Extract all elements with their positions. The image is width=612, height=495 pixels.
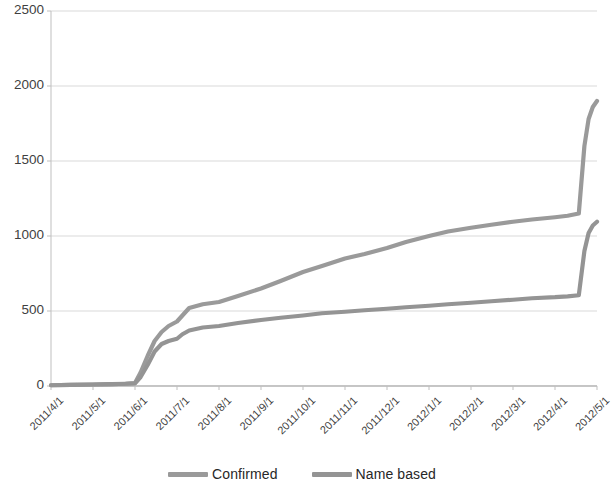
gridlines-group — [51, 11, 597, 386]
legend-swatch-icon — [168, 472, 208, 477]
axis-lines-group — [47, 11, 597, 386]
legend-item[interactable]: Name based — [312, 466, 436, 482]
x-tick-marks-group — [51, 386, 597, 390]
y-axis-label: 1000 — [0, 227, 44, 242]
y-axis-label: 500 — [0, 302, 44, 317]
chart-legend: ConfirmedName based — [0, 466, 604, 482]
legend-label: Name based — [356, 466, 436, 482]
series-line-confirmed — [51, 101, 597, 385]
legend-item[interactable]: Confirmed — [168, 466, 277, 482]
series-paths-group — [51, 101, 597, 385]
y-axis-label: 2000 — [0, 77, 44, 92]
y-axis-label: 0 — [0, 377, 44, 392]
series-line-name-based — [51, 222, 597, 386]
legend-swatch-icon — [312, 472, 352, 477]
legend-label: Confirmed — [212, 466, 277, 482]
y-axis-label: 2500 — [0, 2, 44, 17]
y-axis-label: 1500 — [0, 152, 44, 167]
